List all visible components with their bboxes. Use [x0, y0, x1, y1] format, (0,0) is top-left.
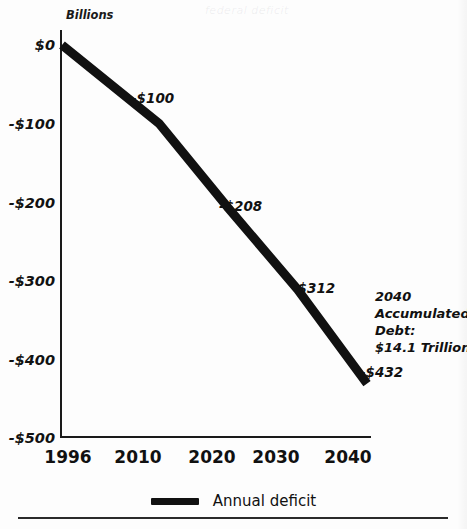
point-label-2030: -$312: [292, 282, 335, 296]
plot-area: Billions $0 -$100 -$200 -$300 -$400 -$50…: [0, 0, 467, 470]
annotation-line-1: 2040: [375, 288, 467, 305]
legend-label-annual-deficit: Annual deficit: [213, 494, 316, 509]
accumulated-debt-annotation: 2040 Accumulated Debt: $14.1 Trillion: [375, 288, 467, 357]
annotation-line-2: Accumulated: [375, 305, 467, 322]
footer-divider: [18, 517, 448, 519]
point-label-2010: -$100: [131, 92, 174, 106]
chart-page: federal deficit Billions $0 -$100 -$200 …: [0, 0, 467, 529]
chart-legend: Annual deficit: [0, 488, 467, 514]
series-svg: [0, 0, 467, 470]
legend-swatch-annual-deficit: [151, 498, 199, 505]
point-label-2020: -$208: [219, 200, 262, 214]
series-line-annual-deficit: [62, 45, 367, 384]
annotation-line-4: $14.1 Trillion: [375, 339, 467, 356]
annotation-line-3: Debt:: [375, 322, 467, 339]
point-label-2040: -$432: [360, 366, 403, 380]
